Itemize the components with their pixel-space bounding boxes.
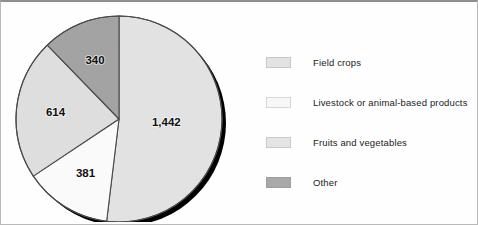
legend-label-field-crops: Field crops: [313, 57, 361, 68]
legend-swatch-livestock: [266, 97, 291, 108]
legend-item-other[interactable]: Other: [266, 162, 471, 202]
legend-label-livestock: Livestock or animal-based products: [313, 97, 468, 108]
legend-swatch-field-crops: [266, 57, 291, 68]
legend-label-other: Other: [313, 177, 338, 188]
pie-chart-graphic: 1,442381614340: [13, 10, 241, 222]
legend-swatch-other: [266, 177, 291, 188]
pie-slice-group: [16, 16, 222, 222]
pie-slice-value-label: 340: [85, 54, 104, 66]
chart-screenshot: 1,442381614340 Field crops Livestock or …: [0, 0, 478, 225]
pie-chart-figure: 1,442381614340 Field crops Livestock or …: [1, 2, 477, 224]
pie-slice-value-label: 614: [46, 106, 66, 118]
chart-legend: Field crops Livestock or animal-based pr…: [266, 42, 471, 202]
pie-slice-value-label: 1,442: [152, 116, 181, 128]
legend-swatch-fruits-vegetables: [266, 137, 291, 148]
legend-item-field-crops[interactable]: Field crops: [266, 42, 471, 82]
pie-svg: 1,442381614340: [13, 10, 241, 222]
legend-item-livestock[interactable]: Livestock or animal-based products: [266, 82, 471, 122]
legend-label-fruits-vegetables: Fruits and vegetables: [313, 137, 407, 148]
legend-item-fruits-vegetables[interactable]: Fruits and vegetables: [266, 122, 471, 162]
pie-slice-value-label: 381: [76, 167, 96, 179]
